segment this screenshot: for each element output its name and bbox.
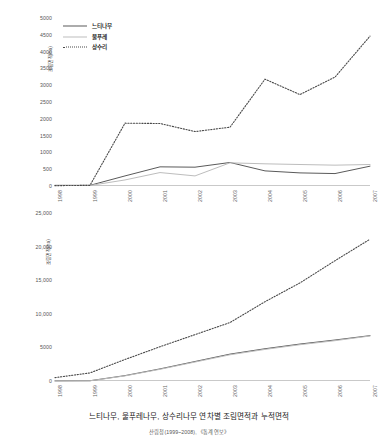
x-tick-label: 2000 — [127, 190, 133, 202]
series-line-상수리 — [55, 36, 370, 186]
x-tick-label: 2007 — [372, 385, 378, 397]
y-tick-label: 20,000 — [36, 244, 52, 250]
figure-afforestation: 조림면적(ha) 0500100015002000250030003500400… — [0, 0, 378, 443]
legend-line-swatch-icon — [63, 24, 87, 29]
legend-label: 상수리 — [92, 43, 107, 51]
y-tick-label: 2500 — [40, 99, 52, 105]
figure-caption-source: 산림청(1999~2008), 《통계연보》 — [0, 428, 378, 435]
series-line-물푸레 — [55, 336, 370, 381]
y-tick-label: 25,000 — [36, 210, 52, 216]
series-lines-bottom — [55, 213, 370, 381]
legend-dotted-swatch-icon — [63, 45, 87, 50]
x-tick-label: 1999 — [92, 385, 98, 397]
y-tick-label: 2000 — [40, 116, 52, 122]
x-tick-label: 2005 — [302, 385, 308, 397]
legend-label: 물푸레 — [92, 33, 107, 41]
y-tick-label: 4000 — [40, 49, 52, 55]
x-tick-label: 2003 — [232, 190, 238, 202]
legend-line-swatch-icon — [63, 34, 87, 39]
x-tick-label: 2001 — [162, 385, 168, 397]
x-tick-label: 2006 — [337, 385, 343, 397]
x-tick-label: 1999 — [92, 190, 98, 202]
y-tick-label: 10,000 — [36, 311, 52, 317]
x-tick-label: 2001 — [162, 190, 168, 202]
chart-legend: 느티나무 물푸레 상수리 — [63, 22, 112, 51]
x-tick-label: 1998 — [57, 385, 63, 397]
y-tick-label: 5000 — [40, 344, 52, 350]
y-tick-label: 0 — [49, 183, 52, 189]
chart-annual-afforestation: 조림면적(ha) 0500100015002000250030003500400… — [0, 0, 378, 205]
y-tick-label: 3500 — [40, 65, 52, 71]
x-tick-label: 2002 — [197, 190, 203, 202]
figure-caption-title: 느티나무, 물푸레나무, 상수리나무 연차별 조림면적과 누적면적 — [0, 410, 378, 421]
plot-area-bottom: 0500010,00015,00020,00025,000 1998199920… — [55, 213, 370, 381]
y-tick-label: 5000 — [40, 15, 52, 21]
x-tick-label: 2000 — [127, 385, 133, 397]
x-tick-label: 2002 — [197, 385, 203, 397]
x-tick-label: 2005 — [302, 190, 308, 202]
y-tick-label: 1500 — [40, 133, 52, 139]
y-tick-label: 500 — [43, 166, 52, 172]
y-tick-label: 1000 — [40, 149, 52, 155]
legend-label: 느티나무 — [92, 22, 112, 30]
legend-item-sangsuri: 상수리 — [63, 43, 112, 51]
x-tick-label: 2003 — [232, 385, 238, 397]
x-tick-label: 2006 — [337, 190, 343, 202]
chart-cumulative-afforestation: 조림면적(ha) 0500010,00015,00020,00025,000 1… — [0, 205, 378, 400]
legend-item-neutinamu: 느티나무 — [63, 22, 112, 30]
series-line-느티나무 — [55, 162, 370, 185]
x-tick-label: 2004 — [267, 190, 273, 202]
y-tick-label: 3000 — [40, 82, 52, 88]
x-tick-label: 2004 — [267, 385, 273, 397]
series-line-상수리 — [55, 239, 370, 377]
y-tick-label: 0 — [49, 378, 52, 384]
legend-item-mulpure: 물푸레 — [63, 33, 112, 41]
x-tick-label: 2007 — [372, 190, 378, 202]
y-tick-label: 4500 — [40, 32, 52, 38]
x-tick-label: 1998 — [57, 190, 63, 202]
y-tick-label: 15,000 — [36, 277, 52, 283]
